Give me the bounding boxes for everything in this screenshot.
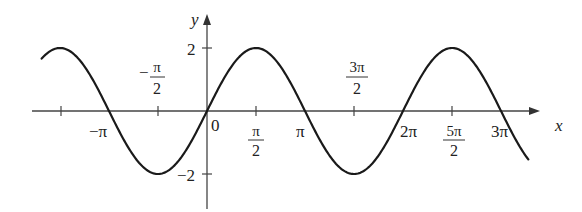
x-tick-label-neg-pi: −π bbox=[89, 122, 108, 141]
fraction-denominator: 2 bbox=[252, 142, 260, 159]
fraction-denominator: 2 bbox=[153, 80, 161, 97]
x-tick-label-two-pi: 2π bbox=[400, 122, 418, 141]
x-tick-label-half-pi: π 2 bbox=[248, 123, 264, 159]
x-tick-label-neg-half-pi: − π 2 bbox=[139, 59, 165, 97]
fraction-numerator: 3π bbox=[349, 59, 365, 75]
y-axis-label: y bbox=[189, 10, 199, 29]
x-tick-label-pi: π bbox=[296, 122, 305, 141]
fraction-numerator: π bbox=[252, 123, 260, 139]
y-axis-arrow-icon bbox=[203, 14, 211, 25]
x-tick-label-three-pi: 3π bbox=[491, 122, 509, 141]
x-tick-label-three-half-pi: 3π 2 bbox=[346, 59, 368, 97]
y-tick-label-neg2: −2 bbox=[177, 166, 195, 185]
x-axis-label: x bbox=[554, 116, 563, 135]
minus-sign: − bbox=[139, 63, 149, 82]
fraction-numerator: π bbox=[153, 59, 161, 75]
fraction-numerator: 5π bbox=[446, 123, 462, 139]
sine-graph: y x 2 −2 0 −π − π 2 π 2 π 3π 2 2π 5π 2 3… bbox=[0, 0, 582, 212]
y-tick-label-2: 2 bbox=[187, 40, 196, 59]
x-tick-label-five-half-pi: 5π 2 bbox=[443, 123, 465, 159]
origin-label: 0 bbox=[211, 116, 220, 135]
fraction-denominator: 2 bbox=[353, 80, 361, 97]
x-axis-arrow-icon bbox=[529, 107, 540, 115]
fraction-denominator: 2 bbox=[450, 142, 458, 159]
